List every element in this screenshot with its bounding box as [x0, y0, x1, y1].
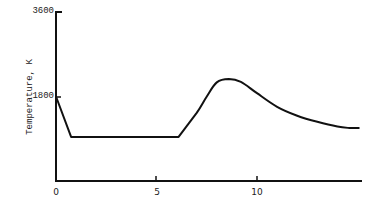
temperature-chart	[0, 0, 371, 211]
y-tick-label-3600: 3600	[24, 6, 54, 16]
y-tick-label-1800: 1800	[24, 91, 54, 101]
x-tick-label-10: 10	[251, 187, 262, 197]
x-tick-label-5: 5	[154, 187, 160, 197]
x-tick-label-0: 0	[53, 187, 59, 197]
temperature-curve	[56, 79, 360, 137]
